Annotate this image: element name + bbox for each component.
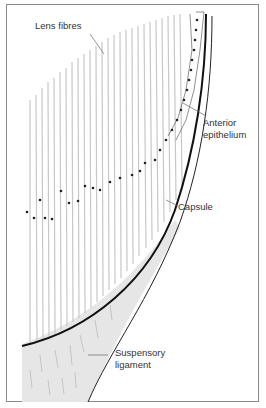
epithelium-nuclei xyxy=(26,19,199,221)
epithelium-cells xyxy=(168,12,204,140)
label-anterior-epithelium-line2: epithelium xyxy=(203,129,246,140)
label-suspensory-ligament-line2: ligament xyxy=(115,359,151,370)
lens-fibres-lines xyxy=(30,14,182,345)
label-anterior-epithelium-line1: Anterior xyxy=(203,117,236,128)
label-suspensory-ligament-line1: Suspensory xyxy=(115,347,165,358)
label-capsule: Capsule xyxy=(178,201,213,212)
label-lens-fibres: Lens fibres xyxy=(35,20,81,31)
